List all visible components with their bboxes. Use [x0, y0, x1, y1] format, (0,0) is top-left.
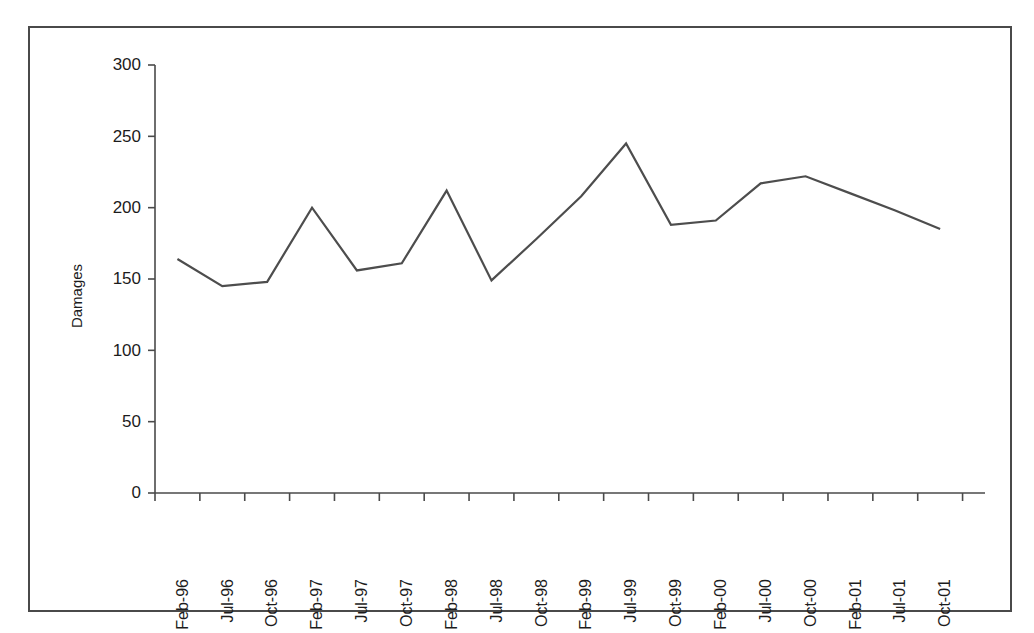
x-axis-tick-label: Feb-01	[847, 579, 864, 630]
x-axis-tick-label: Jul-01	[891, 579, 908, 623]
data-series-line	[177, 143, 940, 286]
x-axis-tick-label: Feb-00	[712, 579, 729, 630]
x-axis-tick-label: Jul-96	[219, 579, 236, 623]
x-axis-tick-label: Oct-99	[667, 579, 684, 627]
x-axis-tick-label: Jul-99	[622, 579, 639, 623]
x-axis-tick-label: Feb-98	[443, 579, 460, 630]
y-axis-tick-label: 300	[113, 55, 141, 74]
y-axis-tick-label: 100	[113, 341, 141, 360]
x-axis-tick-label: Oct-97	[398, 579, 415, 627]
x-axis-tick-labels: Feb-96Jul-96Oct-96Feb-97Jul-97Oct-97Feb-…	[174, 579, 954, 630]
x-axis-tick-label: Feb-99	[577, 579, 594, 630]
y-axis-tick-label: 150	[113, 269, 141, 288]
y-axis-ticks: 050100150200250300	[113, 55, 155, 502]
y-axis-tick-label: 50	[122, 412, 141, 431]
x-axis-tick-label: Oct-00	[802, 579, 819, 627]
x-axis-tick-label: Oct-98	[533, 579, 550, 627]
y-axis-label: Damages	[68, 264, 85, 328]
y-axis-tick-label: 250	[113, 127, 141, 146]
x-axis-tick-label: Jul-00	[757, 579, 774, 623]
x-axis-ticks	[155, 493, 963, 501]
y-axis-tick-label: 200	[113, 198, 141, 217]
x-axis-tick-label: Feb-97	[308, 579, 325, 630]
x-axis-tick-label: Jul-97	[353, 579, 370, 623]
x-axis-tick-label: Oct-96	[263, 579, 280, 627]
x-axis-tick-label: Feb-96	[174, 579, 191, 630]
x-axis-tick-label: Oct-01	[936, 579, 953, 627]
series-group	[177, 143, 940, 286]
x-axis-tick-label: Jul-98	[488, 579, 505, 623]
y-axis-tick-label: 0	[132, 483, 141, 502]
line-chart: Damages 050100150200250300 Feb-96Jul-96O…	[0, 0, 1034, 633]
